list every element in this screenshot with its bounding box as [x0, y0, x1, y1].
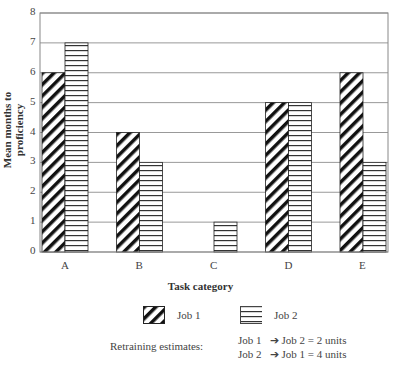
y-tick-label: 0	[30, 244, 36, 256]
y-axis-label: Mean months to proficiency	[1, 65, 25, 195]
bars	[42, 43, 386, 252]
gridlines	[40, 13, 388, 252]
bar-D-job1	[266, 103, 289, 252]
arrow-right-icon: ➔	[270, 334, 279, 346]
y-tick-label: 4	[30, 125, 36, 137]
retraining-line-2: Job 2 ➔ Job 1 = 4 units	[238, 347, 346, 361]
retraining-line-1: Job 1 ➔ Job 2 = 2 units	[238, 333, 346, 347]
retraining-label: Retraining estimates:	[110, 340, 203, 352]
bar-C-job2	[214, 222, 237, 252]
bar-E-job1	[340, 73, 363, 252]
arrow-right-icon: ➔	[270, 348, 279, 360]
legend-item-job1: Job 1	[143, 306, 201, 324]
y-tick-label: 7	[30, 35, 36, 47]
y-tick-label: 2	[30, 184, 36, 196]
x-tick-label: D	[285, 259, 293, 271]
x-tick-label: A	[61, 259, 69, 271]
y-tick-label: 6	[30, 65, 36, 77]
bar-D-job2	[289, 103, 312, 252]
x-tick-label: E	[359, 259, 366, 271]
horizontal-lines-swatch-icon	[240, 306, 262, 324]
bar-B-job2	[140, 162, 163, 252]
y-tick-label: 3	[30, 154, 36, 166]
bar-B-job1	[117, 133, 140, 253]
y-tick-label: 5	[30, 95, 36, 107]
diagonal-hatch-swatch-icon	[143, 306, 165, 324]
y-tick-label: 8	[30, 5, 36, 17]
y-tick-label: 1	[30, 214, 36, 226]
legend-label-job1: Job 1	[177, 309, 201, 321]
legend-label-job2: Job 2	[274, 309, 298, 321]
bar-A-job2	[65, 43, 88, 252]
bar-E-job2	[363, 162, 386, 252]
x-tick-label: B	[136, 259, 143, 271]
bar-A-job1	[42, 73, 65, 252]
x-tick-label: C	[210, 259, 217, 271]
retraining-estimates: Job 1 ➔ Job 2 = 2 units Job 2 ➔ Job 1 = …	[238, 333, 346, 361]
legend-item-job2: Job 2	[240, 306, 298, 324]
x-axis-label: Task category	[0, 280, 401, 292]
